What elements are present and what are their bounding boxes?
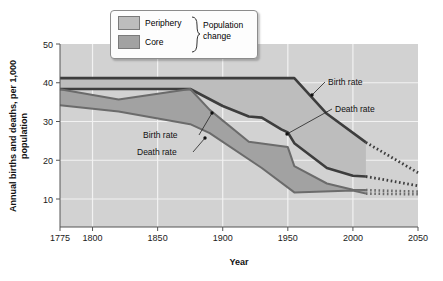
annotation-label: Birth rate	[328, 77, 363, 87]
x-tick-label: 1900	[213, 233, 233, 243]
legend-label-periphery: Periphery	[145, 18, 181, 28]
y-tick-label: 10	[43, 195, 53, 205]
x-tick-label: 1950	[278, 233, 298, 243]
x-tick-label: 2050	[408, 233, 428, 243]
x-tick-label: 2000	[343, 233, 363, 243]
y-tick-label: 20	[43, 156, 53, 166]
x-axis-title: Year	[229, 257, 249, 267]
legend-items: Periphery Core	[118, 16, 194, 53]
y-tick-label: 30	[43, 117, 53, 127]
y-tick-label: 40	[43, 78, 53, 88]
y-axis-title-box: Annual births and deaths, per 1,000 popu…	[2, 46, 36, 226]
x-tick-label: 1850	[148, 233, 168, 243]
legend-group-label-line1: Population	[203, 20, 243, 31]
legend-group-label: Population change	[203, 20, 243, 42]
legend: Periphery Core Population change	[110, 10, 258, 59]
legend-swatch-periphery	[118, 16, 140, 30]
population-change-chart: 1775180018501900195020002050 1020304050 …	[0, 0, 443, 281]
y-tick-label: 50	[43, 40, 53, 50]
legend-brace-icon	[191, 15, 201, 55]
legend-label-core: Core	[145, 37, 163, 47]
x-tick-label: 1775	[50, 233, 70, 243]
x-tick-label: 1800	[83, 233, 103, 243]
legend-item-periphery: Periphery	[118, 16, 181, 30]
annotation-label: Death rate	[335, 104, 375, 114]
legend-item-core: Core	[118, 35, 163, 49]
y-axis-title: Annual births and deaths, per 1,000 popu…	[2, 46, 36, 226]
legend-swatch-core	[118, 35, 140, 49]
legend-group-label-line2: change	[203, 31, 243, 42]
annotation-label: Birth rate	[143, 130, 178, 140]
annotation-label: Death rate	[137, 147, 177, 157]
